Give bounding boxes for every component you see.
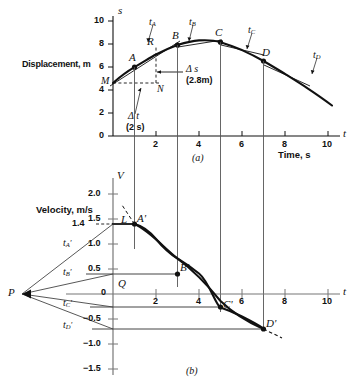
- figure-root: s Displacement, m t Time, s 0 2 4 6 8 10…: [0, 0, 353, 389]
- point-label-b: B: [172, 30, 179, 41]
- panel-a-x-axis-title: Time, s: [278, 150, 311, 160]
- panel-a-axes: [108, 16, 340, 136]
- panel-b-y-axis-symbol: V: [117, 170, 124, 181]
- point-label-d-prime: D': [266, 318, 276, 329]
- point-label-b-prime: B': [180, 262, 189, 273]
- point-label-a-prime: A': [137, 213, 146, 224]
- ray-label-td-prime: tD′: [63, 320, 72, 331]
- ray-label-tb-prime: tB′: [63, 267, 72, 278]
- panel-a-x-tick-2: 2: [153, 140, 158, 149]
- delta-t-value: (2 s): [126, 123, 145, 132]
- panel-a-x-axis-symbol: t: [343, 128, 346, 139]
- point-label-q: Q: [118, 278, 126, 289]
- panel-a-y-tick-8: 8: [99, 39, 104, 48]
- tangent-label-ta: tA: [149, 17, 156, 28]
- panel-b-y-tick-neg1p5: −1.5: [83, 364, 101, 373]
- velocity-curve: [113, 205, 282, 338]
- panel-b-x-tick-10: 10: [322, 297, 332, 306]
- tangent-label-tb: tB: [189, 17, 196, 28]
- delta-s-label: Δ s: [186, 64, 198, 74]
- panel-a-y-tick-0: 0: [99, 131, 104, 140]
- point-label-c: C: [215, 27, 222, 38]
- ray-label-tc-prime: tC′: [63, 298, 72, 309]
- panel-a-y-axis-symbol: s: [118, 5, 122, 16]
- panel-b-x-tick-2: 2: [153, 297, 158, 306]
- point-label-m: M: [101, 76, 109, 86]
- panel-a-x-tick-8: 8: [282, 140, 287, 149]
- panel-b-x-axis-symbol: t: [343, 286, 346, 297]
- point-label-d: D: [262, 47, 270, 58]
- caption-b: (b): [186, 366, 198, 376]
- point-label-c-prime: C': [223, 299, 233, 310]
- panel-b-y-axis-title: Velocity, m/s: [36, 205, 93, 215]
- point-label-r: R: [147, 36, 154, 47]
- point-label-n: N: [157, 84, 164, 94]
- panel-a-y-tick-4: 4: [99, 85, 104, 94]
- projection-lines: [135, 42, 264, 330]
- panel-b-extra-y-label: 1.4: [72, 219, 85, 228]
- panel-a-x-tick-10: 10: [322, 140, 332, 149]
- panel-a-x-tick-6: 6: [239, 140, 244, 149]
- point-label-a: A: [129, 52, 136, 63]
- panel-b-x-tick-8: 8: [282, 297, 287, 306]
- tangent-label-tc: tC: [248, 25, 255, 36]
- panel-a-y-tick-10: 10: [94, 16, 104, 25]
- panel-b-y-tick-neg0p5: −0.5: [83, 314, 101, 323]
- panel-b-x-tick-6: 6: [239, 297, 244, 306]
- panel-a-y-tick-6: 6: [99, 62, 104, 71]
- panel-a-x-tick-4: 4: [196, 140, 201, 149]
- panel-b-y-tick-2p0: 2.0: [88, 189, 101, 198]
- panel-b-y-tick-0: 0: [101, 288, 106, 297]
- panel-b-y-tick-0p5: 0.5: [88, 264, 101, 273]
- delta-t-label: Δ t: [128, 111, 139, 121]
- caption-a: (a): [192, 153, 204, 163]
- panel-a-y-axis-title: Displacement, m: [22, 60, 91, 69]
- displacement-curve: [113, 40, 332, 105]
- panel-b-y-tick-1p5: 1.5: [88, 214, 101, 223]
- panel-b-y-tick-neg1p0: −1.0: [83, 339, 101, 348]
- pole-label-p: P: [8, 287, 15, 298]
- panel-b-y-tick-1p0: 1.0: [88, 239, 101, 248]
- ray-label-ta-prime: tA′: [63, 238, 72, 249]
- delta-construction: [113, 47, 183, 114]
- point-label-l: L: [121, 214, 127, 225]
- tangent-label-td: tD: [313, 50, 321, 61]
- delta-s-value: (2.8m): [186, 76, 213, 85]
- panel-a-y-tick-2: 2: [99, 108, 104, 117]
- panel-b-x-tick-4: 4: [196, 297, 201, 306]
